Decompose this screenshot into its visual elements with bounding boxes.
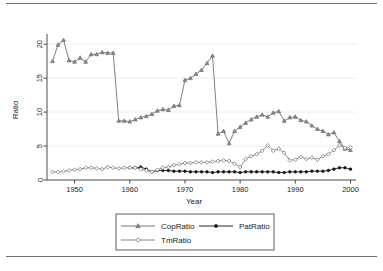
data-point-marker [315, 158, 319, 162]
data-point-marker [299, 118, 303, 121]
data-point-marker [205, 160, 209, 164]
y-tick-label: 5 [36, 144, 45, 148]
data-point-marker [67, 58, 71, 61]
data-point-marker [111, 166, 115, 170]
data-point-marker [189, 161, 193, 165]
x-tick-label: 1990 [287, 185, 304, 194]
data-point-marker [304, 157, 308, 161]
data-point-marker [249, 154, 253, 158]
data-point-marker [222, 171, 225, 174]
data-point-marker [178, 170, 181, 173]
data-point-marker [261, 171, 264, 174]
gridlines [47, 44, 356, 146]
data-point-marker [239, 171, 242, 174]
x-axis: 195019601970198019902000 [47, 180, 359, 194]
data-point-marker [184, 170, 187, 173]
data-point-marker [155, 109, 159, 112]
data-point-marker [233, 162, 237, 166]
data-point-marker [222, 158, 226, 162]
data-point-marker [56, 170, 60, 174]
y-axis-title-group: Ratio [11, 100, 20, 119]
data-point-marker [260, 113, 264, 116]
x-tick-label: 1950 [66, 185, 83, 194]
data-point-marker [78, 167, 82, 171]
data-point-marker [172, 104, 176, 107]
data-point-marker [106, 165, 110, 169]
data-point-marker [100, 50, 104, 53]
data-point-marker [211, 171, 214, 174]
data-point-marker [255, 152, 259, 156]
data-point-marker [216, 132, 220, 135]
x-axis-title-group: Year [186, 197, 203, 206]
series-tmratio [51, 143, 353, 173]
data-point-marker [67, 169, 71, 173]
data-point-marker [111, 51, 115, 54]
data-point-marker [122, 119, 126, 122]
y-tick-label: 15 [36, 74, 45, 82]
data-point-marker [277, 171, 280, 174]
data-point-marker [228, 171, 231, 174]
legend-label: TmRatio [161, 236, 192, 245]
data-point-marker [293, 115, 297, 118]
data-point-marker [311, 170, 314, 173]
data-point-marker [222, 129, 226, 132]
data-point-marker [333, 168, 336, 171]
data-point-marker [128, 166, 132, 170]
data-point-marker [194, 160, 198, 164]
data-point-marker [150, 112, 154, 115]
data-point-marker [95, 167, 99, 171]
data-point-marker [183, 161, 187, 165]
data-point-marker [272, 171, 275, 174]
data-point-marker [161, 166, 165, 170]
data-point-marker [250, 171, 253, 174]
data-point-marker [117, 167, 121, 171]
x-tick-label: 1970 [177, 185, 194, 194]
y-tick-label: 20 [36, 40, 45, 48]
data-point-marker [332, 130, 336, 133]
data-point-marker [322, 170, 325, 173]
data-point-marker [321, 154, 325, 158]
data-point-marker [62, 169, 66, 173]
data-point-marker [211, 160, 215, 164]
data-point-marker [249, 118, 253, 121]
figure-container: 05101520 195019601970198019902000 Ratio … [0, 0, 383, 271]
data-point-marker [277, 109, 281, 112]
series-layer [51, 38, 353, 174]
y-tick-label: 0 [36, 178, 45, 182]
data-point-marker [195, 171, 198, 174]
data-point-marker [183, 78, 187, 81]
data-point-marker [95, 52, 99, 55]
data-point-marker [227, 159, 231, 163]
data-point-marker [349, 168, 352, 171]
data-point-marker [338, 167, 341, 170]
data-point-marker [206, 171, 209, 174]
x-tick-label: 1960 [121, 185, 138, 194]
data-point-marker [294, 171, 297, 174]
data-point-marker [271, 111, 275, 114]
data-point-marker [244, 171, 247, 174]
data-point-marker [122, 166, 126, 170]
y-axis: 05101520 [36, 34, 48, 182]
data-point-marker [144, 114, 148, 117]
data-point-marker [283, 171, 286, 174]
data-point-marker [189, 171, 192, 174]
data-point-marker [244, 121, 248, 124]
data-point-marker [51, 170, 55, 174]
data-point-marker [84, 166, 88, 170]
legend-label: PatRatio [239, 222, 270, 231]
data-point-marker [139, 116, 143, 119]
data-point-marker [233, 171, 236, 174]
y-axis-title: Ratio [11, 100, 20, 119]
data-point-marker [167, 169, 170, 172]
data-point-marker [211, 54, 215, 57]
legend-label: CopRatio [161, 222, 195, 231]
data-point-marker [178, 103, 182, 106]
data-point-marker [327, 169, 330, 172]
data-point-marker [62, 38, 66, 41]
data-point-marker [78, 56, 82, 59]
data-point-marker [315, 127, 319, 130]
data-point-marker [133, 118, 137, 121]
data-point-marker [255, 115, 259, 118]
x-tick-label: 1980 [232, 185, 249, 194]
data-point-marker [200, 160, 204, 164]
